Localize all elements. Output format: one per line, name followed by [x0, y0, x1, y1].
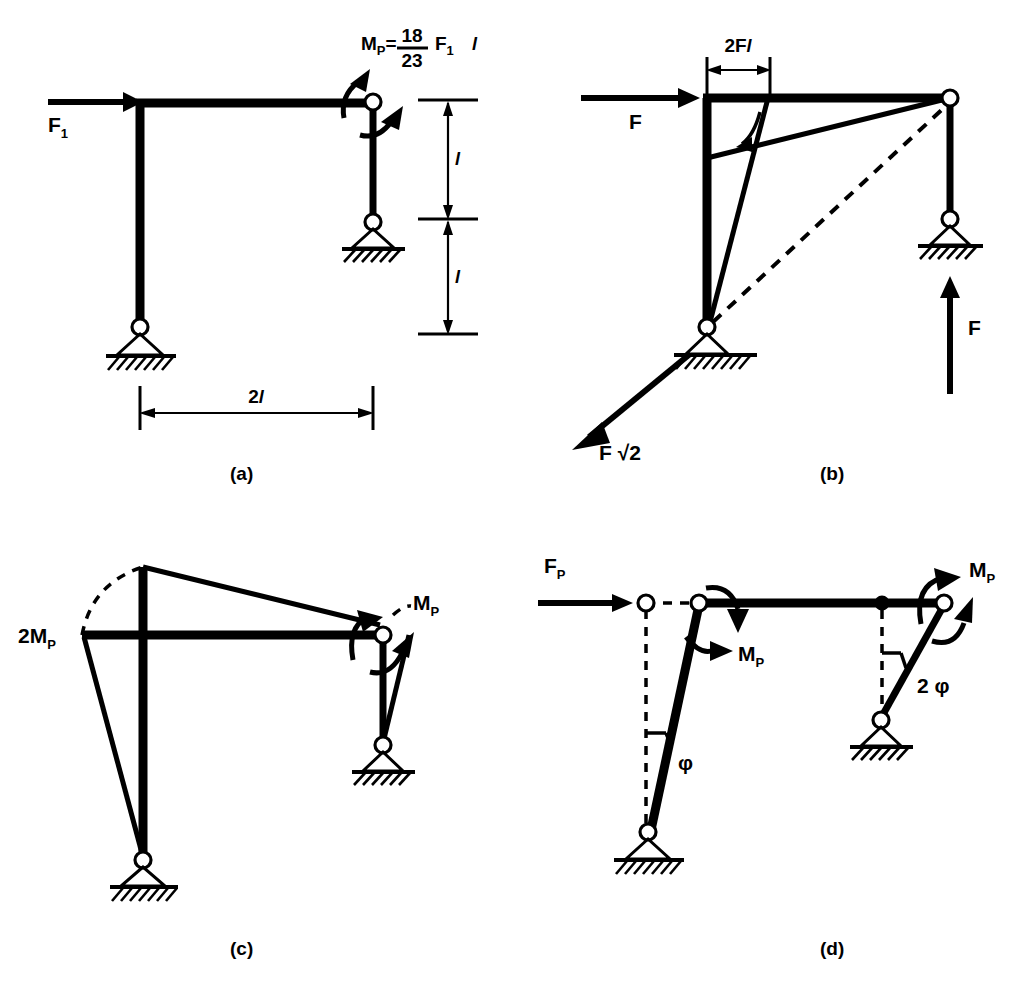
applied-force-arrow-a — [48, 92, 143, 112]
support-triangle-icon — [363, 752, 403, 771]
support-triangle-icon — [686, 334, 728, 354]
moment-arrow-column-a — [360, 106, 403, 136]
angle-arc — [901, 653, 906, 668]
left-moment-label-d: MP — [738, 642, 765, 670]
moment-arrow-head-icon — [727, 609, 749, 633]
reaction-arrow-shaft — [589, 354, 690, 437]
beam-reference-node-icon — [876, 597, 888, 609]
right-column-member — [881, 605, 944, 718]
horizontal-dimension-a: 2l — [139, 386, 374, 430]
right-pinned-support — [342, 214, 405, 262]
left-rotation-label-d: φ — [678, 751, 693, 774]
formula-mp: MP= — [361, 33, 397, 58]
left-pinned-support-c — [110, 852, 178, 901]
right-moment-label-d: MP — [969, 558, 996, 586]
support-triangle-icon — [626, 839, 670, 859]
moment-arrow-beam-a — [343, 69, 370, 118]
formula-length: l — [472, 34, 478, 54]
diagonal-reaction-arrow-b — [572, 354, 690, 450]
mechanism-frame-d — [651, 603, 944, 830]
plastic-moment-formula: MP= 18 23 F1 l — [361, 25, 478, 71]
panel-c-drawing: 2MP MP — [0, 505, 514, 984]
right-moment-label-c: MP — [413, 591, 440, 619]
dim-label-lower: l — [455, 267, 461, 287]
undeformed-shape-d — [646, 603, 882, 830]
panel-d: FP MP MP — [514, 505, 1028, 984]
left-moment-arrow-beam-d — [706, 587, 749, 633]
panel-d-drawing: FP MP MP — [514, 505, 1028, 984]
vertical-reaction-arrow-b — [940, 276, 960, 394]
support-triangle-icon — [352, 229, 394, 248]
vertical-dimension-a: l l — [418, 100, 478, 335]
ground-hatching — [354, 773, 410, 785]
moment-arrow-head-icon — [954, 597, 973, 623]
joint-hinge-icon — [942, 90, 958, 106]
moment-label-leader-dashed — [393, 606, 411, 615]
force-arrow-head-icon — [612, 594, 633, 612]
ground-hatching — [108, 357, 173, 370]
undeformed-hinge-icon — [638, 595, 654, 611]
panel-b-drawing: F 2Fl F F √2 (b) — [514, 0, 1028, 505]
left-pinned-support-b — [674, 319, 757, 369]
ground-hatching — [616, 861, 681, 874]
formula-tail: F1 — [435, 33, 454, 58]
left-pinned-support — [106, 319, 176, 370]
panel-a-drawing: F1 MP= 18 23 F1 l — [0, 0, 514, 505]
span-label: 2l — [248, 386, 265, 407]
support-triangle-icon — [861, 727, 901, 746]
collapse-force-arrow-d — [538, 594, 633, 612]
right-rotation-label-d: 2 φ — [917, 674, 950, 697]
force-label-a: F1 — [48, 113, 68, 141]
frame-a — [136, 100, 373, 327]
right-rotation-marker-d — [882, 653, 906, 668]
left-column-member — [651, 605, 699, 830]
moment-dimension-b: 2Fl — [706, 35, 771, 97]
figure-root: F1 MP= 18 23 F1 l — [0, 0, 1028, 984]
diagonal-reaction-label: F √2 — [599, 441, 641, 464]
support-triangle-icon — [117, 334, 163, 355]
moment-arc-icon — [932, 623, 964, 643]
panel-c: 2MP MP — [0, 505, 514, 984]
dim-arrow-head-icon — [443, 220, 453, 235]
dim-label-upper: l — [455, 149, 461, 169]
ground-hatching — [344, 250, 400, 262]
bmd-left-column-line — [84, 637, 143, 857]
panel-caption-d: (d) — [820, 938, 844, 959]
joint-hinge-icon — [375, 627, 391, 643]
joint-hinge-icon — [365, 94, 381, 110]
bmd-dashed-cap — [82, 567, 143, 635]
right-pinned-support-c — [352, 737, 415, 785]
left-joint-hinge-icon — [691, 595, 707, 611]
applied-force-arrow-b — [581, 88, 700, 108]
frame-c — [82, 567, 383, 860]
vertical-reaction-label: F — [968, 316, 981, 339]
ground-hatching — [920, 247, 976, 259]
bmd-beam-line — [143, 567, 380, 625]
reaction-arrow-head-icon — [940, 276, 960, 298]
panel-caption-c: (c) — [230, 938, 253, 959]
moment-arrow-head-icon — [392, 632, 414, 658]
force-arrow-head-icon — [678, 88, 700, 108]
ground-hatching — [112, 888, 177, 901]
support-triangle-icon — [930, 226, 970, 245]
panel-a: F1 MP= 18 23 F1 l — [0, 0, 514, 505]
left-moment-label-c: 2MP — [18, 624, 56, 652]
panel-caption-a: (a) — [230, 463, 253, 484]
panel-b: F 2Fl F F √2 (b) — [514, 0, 1028, 505]
force-label-b: F — [629, 110, 642, 133]
moment-dim-label: 2Fl — [724, 35, 752, 56]
panel-caption-b: (b) — [820, 463, 844, 484]
formula-denominator: 23 — [401, 50, 422, 71]
ground-hatching — [852, 748, 908, 760]
support-triangle-icon — [121, 867, 165, 886]
moment-arrow-head-icon — [934, 568, 961, 591]
moment-arrow-head-icon — [710, 641, 733, 661]
dim-arrow-head-icon — [443, 101, 453, 116]
right-joint-hinge-icon — [936, 595, 952, 611]
bending-moment-diagram-c — [82, 567, 409, 857]
bending-moment-diagram-b — [707, 98, 950, 322]
collapse-force-label-d: FP — [544, 554, 566, 582]
left-pinned-support-d — [614, 824, 684, 874]
bmd-column-line — [710, 98, 768, 322]
formula-numerator: 18 — [401, 25, 422, 46]
